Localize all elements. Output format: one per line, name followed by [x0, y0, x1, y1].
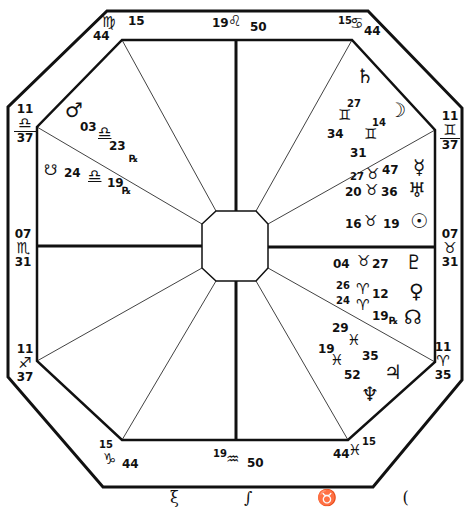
- pisces-sign-icon: ♓: [347, 333, 360, 348]
- pluto-icon: ♇: [405, 252, 423, 272]
- north-node-degree: 24: [336, 296, 350, 306]
- pluto-minutes: 27: [372, 258, 389, 270]
- cusp-6-minutes: 37: [14, 371, 36, 384]
- moon-icon: ☽: [388, 100, 406, 120]
- taurus-sign-icon: ♉: [357, 254, 370, 269]
- aquarius-sign-icon: ♒: [226, 452, 239, 467]
- mercury-icon: ☿: [413, 157, 425, 177]
- south-node-degree: 24: [64, 167, 81, 179]
- cusp-8-label: 11 ♎ 37: [14, 103, 36, 145]
- jupiter-icon: ♃: [384, 362, 402, 382]
- venus-degree: 26: [336, 281, 350, 291]
- cusp-5-degree: 15: [99, 440, 113, 450]
- venus-icon: ♀: [409, 281, 424, 301]
- cusp-desc-label: 07 ♏ 31: [12, 228, 34, 269]
- cancer-sign-icon: ♋: [350, 16, 363, 31]
- jupiter-minutes: 35: [362, 350, 379, 362]
- cusp-mc-minutes: 50: [250, 21, 267, 33]
- footer-text: ξ ∫ ♉ (: [170, 488, 439, 507]
- cusp-11-line: [256, 40, 352, 211]
- cusp-9-minutes: 44: [93, 30, 110, 42]
- libra-sign-icon: ♎: [98, 125, 111, 140]
- cusp-11-minutes: 44: [364, 25, 381, 37]
- libra-sign-icon: ♎: [88, 168, 101, 183]
- neptune-icon: ♆: [361, 384, 379, 404]
- mars-minutes: 23: [109, 140, 126, 152]
- aries-sign-icon: ♈: [356, 298, 369, 313]
- pisces-sign-icon: ♓: [330, 353, 343, 368]
- gemini-sign-icon: ♊: [440, 123, 460, 140]
- south-node-icon: ☋: [44, 163, 57, 178]
- taurus-sign-icon: ♉: [365, 183, 378, 198]
- cusp-desc-minutes: 31: [12, 256, 34, 269]
- capricorn-sign-icon: ♑: [103, 452, 116, 467]
- cusp-9-degree: 15: [128, 15, 145, 27]
- gemini-sign-icon: ♊: [338, 108, 351, 123]
- sun-minutes: 19: [383, 218, 400, 230]
- cusp-2-minutes: 35: [432, 369, 454, 382]
- sagittarius-sign-icon: ♐: [14, 356, 36, 372]
- center-octagon: [202, 211, 268, 281]
- uranus-minutes: 36: [381, 186, 398, 198]
- aries-sign-icon: ♈: [356, 282, 369, 297]
- cusp-asc-label: 07 ♉ 31: [440, 228, 460, 269]
- cusp-3-degree: 15: [362, 437, 376, 447]
- retrograde-icon: ℞: [129, 154, 138, 164]
- cusp-mc-degree: 19: [212, 17, 229, 29]
- north-node-minutes: 19: [372, 310, 389, 322]
- saturn-minutes: 34: [327, 128, 344, 140]
- cusp-12-label: 11 ♊ 37: [440, 110, 460, 152]
- cusp-ic-minutes: 50: [247, 457, 264, 469]
- leo-sign-icon: ♌: [228, 14, 241, 29]
- aries-sign-icon: ♈: [432, 354, 454, 370]
- gemini-sign-icon: ♊: [364, 127, 377, 142]
- mercury-minutes: 47: [382, 164, 399, 176]
- sun-degree: 16: [345, 218, 362, 230]
- virgo-sign-icon: ♍: [102, 15, 115, 30]
- mercury-degree: 27: [350, 172, 364, 182]
- taurus-sign-icon: ♉: [364, 214, 377, 229]
- pisces-sign-icon: ♓: [348, 443, 361, 458]
- cusp-ic-degree: 19: [213, 449, 227, 459]
- venus-minutes: 12: [372, 288, 389, 300]
- libra-sign-icon: ♎: [14, 116, 36, 133]
- cusp-12-minutes: 37: [440, 139, 460, 152]
- cusp-8-minutes: 37: [14, 132, 36, 145]
- retrograde-icon: ℞: [122, 186, 131, 196]
- scorpio-sign-icon: ♏: [12, 241, 34, 257]
- taurus-sign-icon: ♉: [440, 241, 460, 257]
- north-node-icon: ☊: [404, 307, 422, 327]
- neptune-minutes: 52: [344, 369, 361, 381]
- mars-icon: ♂: [65, 100, 83, 120]
- cusp-asc-minutes: 31: [440, 256, 460, 269]
- taurus-sign-icon: ♉: [366, 167, 379, 182]
- saturn-icon: ♄: [356, 66, 374, 86]
- mars-degree: 03: [80, 121, 97, 133]
- uranus-icon: ♅: [408, 180, 426, 200]
- uranus-degree: 20: [345, 186, 362, 198]
- cusp-6-label: 11 ♐ 37: [14, 343, 36, 384]
- retrograde-icon: ℞: [389, 316, 398, 326]
- sun-icon: ☉: [410, 211, 428, 231]
- cusp-2-label: 11 ♈ 35: [432, 341, 454, 382]
- moon-minutes: 31: [350, 147, 367, 159]
- cusp-5-minutes: 44: [122, 458, 139, 470]
- pluto-degree: 04: [333, 258, 350, 270]
